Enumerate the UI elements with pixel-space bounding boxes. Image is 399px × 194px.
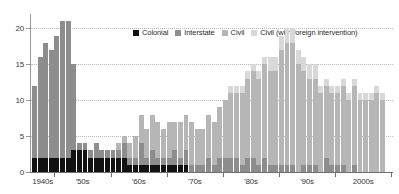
bar-segment — [273, 71, 278, 164]
bar-segment — [71, 150, 76, 172]
bar-column — [200, 129, 205, 172]
bar-segment — [240, 93, 245, 165]
y-axis-tick-mark — [26, 64, 30, 65]
x-axis-tick-label: '90s — [300, 177, 314, 186]
bar-column — [212, 122, 217, 172]
bar-segment — [374, 93, 379, 172]
bar-segment — [374, 86, 379, 93]
bar-column — [111, 150, 116, 172]
bar-column — [150, 115, 155, 172]
bar-segment — [335, 165, 340, 172]
bar-column — [38, 57, 43, 172]
bar-segment — [313, 64, 318, 78]
bar-column — [374, 86, 379, 172]
bar-segment — [256, 71, 261, 78]
bar-segment — [285, 28, 290, 42]
bar-segment — [307, 64, 312, 78]
bar-segment — [301, 165, 306, 172]
bar-segment — [329, 86, 334, 93]
bar-segment — [172, 122, 177, 151]
bar-segment — [122, 143, 127, 157]
bar-column — [99, 150, 104, 172]
bar-segment — [228, 93, 233, 158]
bar-segment — [144, 129, 149, 158]
bar-column — [94, 143, 99, 172]
bar-column — [228, 86, 233, 172]
bar-segment — [167, 158, 172, 165]
bar-segment — [251, 71, 256, 157]
bar-column — [172, 122, 177, 172]
bar-column — [116, 143, 121, 172]
bar-segment — [358, 100, 363, 172]
bar-segment — [105, 158, 110, 172]
x-axis-tick-mark — [335, 172, 336, 177]
bar-segment — [178, 165, 183, 172]
x-axis-line — [30, 172, 393, 173]
bar-segment — [268, 71, 273, 164]
bar-segment — [363, 93, 368, 100]
x-axis-tick-label: '50s — [76, 177, 90, 186]
bar-segment — [358, 93, 363, 100]
bar-segment — [228, 158, 233, 172]
bar-column — [178, 122, 183, 172]
bar-segment — [184, 150, 189, 164]
bar-segment — [94, 143, 99, 157]
y-axis-tick-label: 0 — [0, 168, 24, 177]
bar-segment — [133, 165, 138, 172]
bar-segment — [161, 158, 166, 165]
bar-segment — [217, 107, 222, 157]
bar-segment — [122, 136, 127, 143]
bar-segment — [60, 158, 65, 172]
y-axis-tick-mark — [26, 28, 30, 29]
bar-column — [268, 57, 273, 172]
bar-segment — [150, 115, 155, 151]
bar-column — [251, 64, 256, 172]
bar-segment — [262, 57, 267, 64]
bar-column — [223, 100, 228, 172]
bar-column — [324, 79, 329, 172]
bar-segment — [54, 158, 59, 172]
bar-segment — [66, 21, 71, 157]
bar-column — [49, 50, 54, 172]
bar-segment — [133, 158, 138, 165]
bar-column — [139, 115, 144, 172]
x-axis-tick-label: '60s — [132, 177, 146, 186]
bar-segment — [172, 150, 177, 164]
bar-column — [363, 93, 368, 172]
bar-segment — [105, 150, 110, 157]
bar-segment — [161, 165, 166, 172]
bar-column — [189, 122, 194, 172]
bar-column — [206, 115, 211, 172]
x-axis-tick-mark — [167, 172, 168, 177]
bar-segment — [43, 158, 48, 172]
bar-segment — [307, 165, 312, 172]
bar-segment — [139, 165, 144, 172]
bar-segment — [77, 150, 82, 172]
bar-segment — [99, 158, 104, 172]
bar-segment — [155, 165, 160, 172]
bar-segment — [32, 158, 37, 172]
bar-segment — [60, 21, 65, 157]
bar-segment — [111, 150, 116, 157]
bar-column — [161, 129, 166, 172]
bar-segment — [290, 165, 295, 172]
bar-segment — [256, 79, 261, 165]
conflicts-bar-chart: Colonial Interstate Civil Civil (with fo… — [0, 0, 399, 194]
bar-segment — [38, 158, 43, 172]
bar-segment — [139, 115, 144, 144]
bar-column — [256, 71, 261, 172]
bar-segment — [88, 158, 93, 172]
bar-column — [43, 43, 48, 172]
bar-segment — [256, 165, 261, 172]
bar-segment — [324, 79, 329, 86]
bar-segment — [184, 115, 189, 151]
bar-segment — [245, 79, 250, 158]
bar-column — [184, 115, 189, 172]
bar-segment — [83, 150, 88, 172]
x-axis-tick-mark — [391, 172, 392, 177]
bar-column — [279, 36, 284, 172]
bar-segment — [206, 115, 211, 158]
bar-segment — [341, 86, 346, 165]
bar-segment — [150, 150, 155, 164]
bar-column — [32, 86, 37, 172]
